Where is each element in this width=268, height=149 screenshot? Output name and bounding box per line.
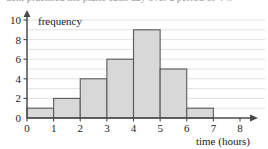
x-axis-arrow-icon [250, 115, 258, 122]
y-tick-label: 10 [10, 14, 22, 26]
x-tick-label: 3 [104, 122, 110, 134]
x-tick-label: 7 [211, 122, 217, 134]
histogram-bar [160, 69, 187, 118]
x-tick-label: 1 [51, 122, 57, 134]
y-tick-label: 8 [16, 34, 22, 46]
x-tick-label: 0 [24, 122, 30, 134]
x-tick-label: 6 [184, 122, 190, 134]
histogram-page: dent practised the piano each day over a… [0, 0, 268, 149]
x-axis-title: time (hours) [196, 135, 250, 148]
histogram-bar [134, 30, 161, 118]
y-tick-label: 0 [16, 112, 22, 124]
y-axis-arrow-icon [24, 10, 31, 17]
histogram-bar [54, 98, 81, 118]
histogram-bar [187, 108, 214, 118]
histogram-figure: 0123456780246810 frequency time (hours) [0, 0, 268, 149]
x-tick-label: 8 [237, 122, 243, 134]
histogram-bar [80, 79, 107, 118]
x-tick-label: 5 [157, 122, 163, 134]
y-tick-label: 2 [16, 92, 22, 104]
histogram-svg: 0123456780246810 frequency time (hours) [0, 0, 268, 149]
y-tick-label: 6 [16, 53, 22, 65]
histogram-bar [107, 59, 134, 118]
bars-group [27, 30, 213, 118]
histogram-bar [27, 108, 54, 118]
y-tick-label: 4 [16, 73, 22, 85]
y-axis-title: frequency [38, 15, 82, 27]
x-tick-label: 4 [131, 122, 137, 134]
x-tick-label: 2 [78, 122, 84, 134]
